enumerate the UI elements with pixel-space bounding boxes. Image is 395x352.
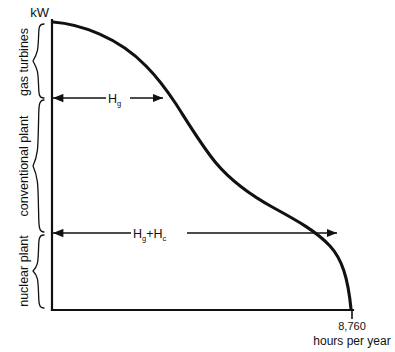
segment-label-gas-turbines: gas turbines xyxy=(17,28,31,96)
dimension-hg-label: Hg xyxy=(108,92,121,108)
dimension-hg-hc-base2: +H xyxy=(146,227,162,241)
dimension-hg-hc-subscript2: c xyxy=(163,234,167,243)
brace-conventional-plant xyxy=(33,100,44,232)
dimension-hg-hc-base: H xyxy=(133,227,142,241)
dimension-hg-base: H xyxy=(108,92,117,106)
segment-label-nuclear-plant: nuclear plant xyxy=(17,235,31,307)
curve-path xyxy=(53,22,351,309)
y-axis-label: kW xyxy=(30,5,50,20)
segment-labels: gas turbines conventional plant nuclear … xyxy=(17,28,31,307)
load-duration-curve xyxy=(53,22,351,309)
chart-axes xyxy=(52,20,353,319)
segment-label-conventional-plant: conventional plant xyxy=(17,115,31,216)
load-duration-curve-figure: Hg Hg+Hc gas turbines conventional plant… xyxy=(0,0,395,352)
brace-nuclear-plant xyxy=(33,235,44,308)
dimension-hg: Hg xyxy=(53,92,163,108)
x-axis-value-label: 8,760 xyxy=(338,320,366,332)
x-axis-caption: hours per year xyxy=(313,334,390,348)
brace-gas-turbines xyxy=(33,24,44,98)
axis-labels: kW 8,760 hours per year xyxy=(30,5,390,348)
dimension-hg-subscript: g xyxy=(117,99,121,108)
dimension-hg-hc-label: Hg+Hc xyxy=(133,227,167,243)
segment-braces xyxy=(33,24,44,308)
dimension-hg-hc: Hg+Hc xyxy=(53,227,337,243)
